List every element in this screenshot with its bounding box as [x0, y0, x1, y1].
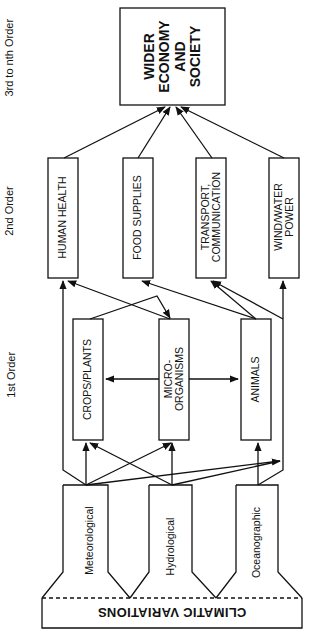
top-box-line: AND: [173, 41, 188, 71]
source-meteorological: Meteorological: [84, 496, 95, 586]
source-hydrological: Hydrological: [165, 502, 176, 592]
top-box-wider-economy-society: WIDER ECONOMY AND SOCIETY: [126, 6, 219, 107]
box-wind-water-power: WIND/WATER POWER: [273, 157, 295, 277]
box-label: COMMUNICATION: [211, 157, 222, 277]
level-label-second: 2nd Order: [4, 196, 16, 236]
box-animals: ANIMALS: [250, 320, 261, 440]
box-label: HUMAN HEALTH: [57, 158, 68, 278]
box-micro-organisms: MICRO- ORGANISMS: [163, 319, 185, 439]
box-label: FOOD SUPPLIES: [132, 158, 143, 278]
box-human-health: HUMAN HEALTH: [57, 158, 68, 278]
box-food-supplies: FOOD SUPPLIES: [132, 158, 143, 278]
top-box-line: WIDER: [142, 33, 157, 80]
box-label: POWER: [284, 157, 295, 277]
box-transport-communication: TRANSPORT, COMMUNICATION: [200, 157, 222, 277]
box-crops-plants: CROPS/PLANTS: [82, 320, 93, 440]
source-oceanographic: Oceanographic: [251, 498, 262, 588]
box-label: CROPS/PLANTS: [82, 320, 93, 440]
box-label: ORGANISMS: [174, 319, 185, 439]
top-box-line: ECONOMY: [157, 20, 172, 92]
box-label: ANIMALS: [250, 320, 261, 440]
level-label-first: 1st Order: [6, 358, 18, 398]
top-box-line: SOCIETY: [188, 26, 203, 87]
level-label-third: 3rd to nth Order: [4, 18, 16, 98]
base-climatic-variations: CLIMATIC VARIATIONS: [42, 605, 302, 619]
